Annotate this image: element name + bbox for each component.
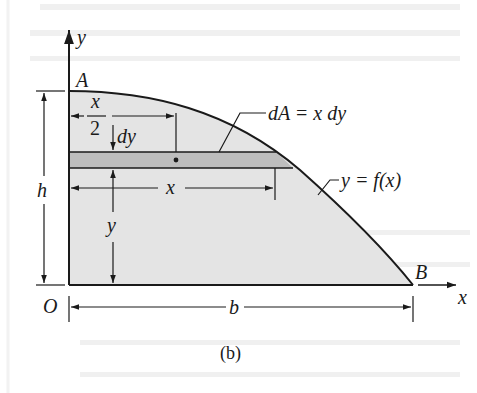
b-dimension-label: b: [229, 296, 239, 318]
differential-strip: [69, 152, 293, 168]
area-centroid-diagram: y x O A B h x 2 dy x y b dA = x dy y = f…: [0, 0, 477, 393]
centroid-dot: [174, 158, 179, 163]
da-label: dA = x dy: [268, 102, 346, 125]
figure-caption: (b): [220, 343, 241, 364]
y-axis-label: y: [75, 26, 86, 49]
curve-label: y = f(x): [339, 169, 401, 192]
y-dimension-label: y: [105, 214, 116, 237]
origin-label: O: [43, 295, 57, 317]
point-a-label: A: [74, 69, 89, 91]
h-dimension-label: h: [37, 179, 47, 201]
point-b-label: B: [415, 261, 427, 283]
dy-label: dy: [117, 125, 136, 148]
x-axis-label: x: [457, 286, 467, 308]
half-x-denominator: 2: [90, 117, 100, 139]
half-x-numerator: x: [90, 90, 100, 112]
x-dimension-label: x: [165, 176, 175, 198]
